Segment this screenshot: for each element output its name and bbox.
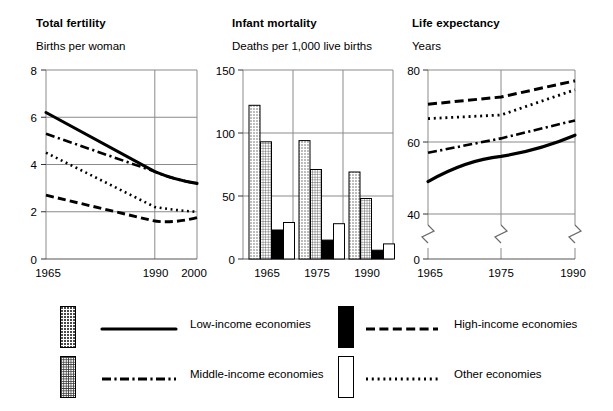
bar-high-income-1975 — [322, 240, 333, 259]
x-tick-mortality-1965: 1965 — [254, 267, 280, 279]
bar-low-income-1990 — [349, 172, 360, 259]
x-tick-lifeexp-1965: 1965 — [417, 267, 443, 279]
bar-group-1975 — [299, 141, 345, 259]
x-tick-mortality-1990: 1990 — [354, 267, 380, 279]
bar-high-income-1990 — [372, 250, 383, 259]
y-axis-ticks-mortality — [238, 70, 243, 259]
y-tick-fertility-6: 6 — [31, 112, 37, 124]
legend-line-high-income — [364, 325, 442, 333]
legend-swatch-low-income — [60, 306, 76, 348]
panel-total-fertility: Total fertility Births per woman — [0, 0, 210, 290]
bar-middle-income-1990 — [361, 199, 372, 260]
chart-infant-mortality: 150 100 50 0 1965 1975 1990 — [208, 0, 408, 290]
y-ticklabels-lifeexp: 80 60 40 0 — [407, 65, 420, 266]
gridlines-fertility — [46, 70, 197, 259]
axis-break-marks — [422, 225, 581, 243]
x-tick-fertility-1990: 1990 — [143, 267, 169, 279]
y-tick-mortality-150: 150 — [216, 65, 235, 77]
panel-infant-mortality: Infant mortality Deaths per 1,000 live b… — [208, 0, 408, 290]
legend-line-other — [364, 375, 442, 383]
x-tick-fertility-2000: 2000 — [181, 267, 207, 279]
legend-swatch-other — [338, 356, 354, 398]
bar-other-1990 — [384, 244, 395, 259]
y-tick-mortality-0: 0 — [229, 254, 235, 266]
legend-swatch-middle-income — [60, 356, 76, 398]
y-tick-fertility-8: 8 — [31, 65, 37, 77]
bar-low-income-1965 — [249, 105, 260, 259]
y-tick-lifeexp-0: 0 — [414, 254, 420, 266]
bar-middle-income-1965 — [261, 142, 272, 259]
bar-high-income-1965 — [272, 230, 283, 259]
y-ticklabels-mortality: 150 100 50 0 — [216, 65, 235, 266]
bar-group-1965 — [249, 105, 295, 259]
y-axis-ticks-lifeexp — [423, 70, 428, 259]
y-tick-fertility-2: 2 — [31, 206, 37, 218]
y-tick-mortality-50: 50 — [222, 191, 235, 203]
series-line-low-income-fertility — [46, 113, 197, 184]
chart-legend: Low-income economies High-income economi… — [0, 290, 613, 411]
legend-swatch-high-income — [338, 306, 354, 348]
x-tick-mortality-1975: 1975 — [304, 267, 330, 279]
bar-low-income-1975 — [299, 141, 310, 259]
y-axis-ticks-fertility — [41, 70, 46, 259]
legend-line-low-income — [100, 325, 178, 333]
x-ticklabels-fertility: 1965 1990 2000 — [35, 267, 207, 279]
x-tick-lifeexp-1990: 1990 — [560, 267, 586, 279]
y-tick-fertility-0: 0 — [31, 254, 37, 266]
series-line-other-fertility — [46, 153, 197, 212]
y-tick-lifeexp-80: 80 — [407, 65, 420, 77]
x-ticklabels-mortality: 1965 1975 1990 — [254, 267, 380, 279]
legend-label-other: Other economies — [454, 368, 542, 380]
figure-root: Total fertility Births per woman — [0, 0, 613, 411]
series-line-high-income-fertility — [46, 195, 197, 222]
bar-other-1975 — [334, 224, 345, 259]
y-tick-lifeexp-60: 60 — [407, 137, 420, 149]
x-tick-fertility-1965: 1965 — [35, 267, 61, 279]
panel-life-expectancy: Life expectancy Years — [400, 0, 613, 290]
y-tick-lifeexp-40: 40 — [407, 209, 420, 221]
bar-group-1990 — [349, 172, 395, 259]
chart-life-expectancy: 80 60 40 0 1965 1975 1990 — [400, 0, 613, 290]
legend-label-middle-income: Middle-income economies — [190, 368, 324, 380]
y-tick-mortality-100: 100 — [216, 128, 235, 140]
bar-other-1965 — [284, 223, 295, 260]
legend-label-low-income: Low-income economies — [190, 318, 311, 330]
x-tick-lifeexp-1975: 1975 — [488, 267, 514, 279]
bar-middle-income-1975 — [311, 170, 322, 260]
legend-line-middle-income — [100, 375, 178, 383]
chart-total-fertility: 8 6 4 2 0 1965 1990 2000 — [0, 0, 210, 290]
x-ticklabels-lifeexp: 1965 1975 1990 — [417, 267, 586, 279]
y-ticklabels-fertility: 8 6 4 2 0 — [31, 65, 38, 266]
y-tick-fertility-4: 4 — [31, 159, 38, 171]
legend-label-high-income: High-income economies — [454, 318, 577, 330]
series-line-middle-income-fertility — [46, 134, 197, 184]
